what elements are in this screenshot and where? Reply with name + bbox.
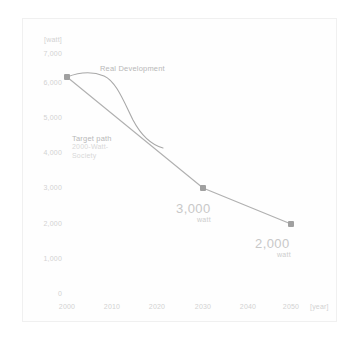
data-label-2000-unit: watt [277,251,291,258]
y-tick-5000: 5,000 [28,114,62,121]
data-point-marker-2050 [288,221,294,227]
y-tick-4000: 4,000 [28,149,62,156]
y-tick-1000: 1,000 [28,255,62,262]
x-tick-2020: 2020 [142,303,172,310]
data-point-marker-2030 [200,185,206,191]
y-tick-6000: 6,000 [28,79,62,86]
annotation-target-path-line2: 2000-Watt- [72,143,108,150]
x-tick-2050: 2050 [276,303,306,310]
x-tick-2040: 2040 [233,303,263,310]
y-axis-unit-label: [watt] [28,36,62,43]
y-tick-3000: 3,000 [28,184,62,191]
x-tick-2000: 2000 [52,303,82,310]
y-tick-0: 0 [28,290,62,297]
chart-figure: [watt] 7,000 6,000 5,000 4,000 3,000 2,0… [0,0,353,340]
annotation-target-path-line3: Society [72,152,96,159]
x-tick-2010: 2010 [97,303,127,310]
data-label-2000-value: 2,000 [255,236,290,251]
data-point-marker-2000 [64,74,70,80]
y-tick-2000: 2,000 [28,220,62,227]
x-tick-2030: 2030 [188,303,218,310]
annotation-real-development: Real Development [100,64,165,73]
x-axis-unit-label: [year] [310,303,329,310]
data-label-3000-value: 3,000 [176,201,211,216]
y-tick-7000: 7,000 [28,50,62,57]
annotation-target-path-line1: Target path [72,134,112,143]
data-label-3000-unit: watt [197,216,211,223]
